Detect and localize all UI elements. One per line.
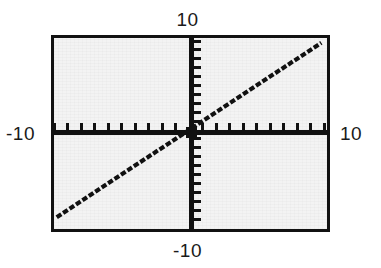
- x-axis-tick: [282, 123, 285, 130]
- x-axis-tick: [323, 123, 326, 130]
- x-axis-tick: [296, 123, 299, 130]
- y-axis-tick: [194, 111, 201, 114]
- y-axis-tick: [194, 218, 201, 221]
- x-axis-max-label: 10: [340, 124, 362, 143]
- x-axis-tick: [255, 123, 258, 130]
- y-axis-max-label: 10: [0, 10, 381, 29]
- y-axis-tick: [194, 75, 201, 78]
- x-axis-tick: [201, 123, 204, 130]
- x-axis-tick: [309, 123, 312, 130]
- x-axis-tick: [242, 123, 245, 130]
- x-axis-tick: [174, 123, 177, 130]
- y-axis-tick: [194, 120, 201, 123]
- x-axis-tick: [228, 123, 231, 130]
- y-axis-tick: [194, 57, 201, 60]
- y-axis-tick: [194, 209, 201, 212]
- x-axis-tick: [120, 123, 123, 130]
- y-axis-tick: [194, 102, 201, 105]
- y-axis-tick: [194, 84, 201, 87]
- x-axis-tick: [134, 123, 137, 130]
- cartesian-plot-figure: 10 -10 10 -10: [0, 0, 381, 268]
- x-axis-tick: [107, 123, 110, 130]
- y-axis-tick: [194, 164, 201, 167]
- plot-frame: [51, 35, 330, 232]
- y-axis-tick: [194, 191, 201, 194]
- y-axis-tick: [194, 93, 201, 96]
- x-axis-tick: [66, 123, 69, 130]
- y-axis-tick: [194, 48, 201, 51]
- x-axis-tick: [93, 123, 96, 130]
- x-axis-tick: [53, 123, 56, 130]
- origin-marker: [186, 127, 197, 138]
- x-axis-tick: [147, 123, 150, 130]
- y-axis-min-label: -10: [0, 241, 381, 260]
- y-axis-tick: [194, 146, 201, 149]
- y-axis-tick: [194, 200, 201, 203]
- x-axis-tick: [269, 123, 272, 130]
- y-axis-tick: [194, 182, 201, 185]
- y-axis-tick: [194, 155, 201, 158]
- x-axis-min-label: -10: [6, 124, 35, 143]
- x-axis-tick: [215, 123, 218, 130]
- x-axis-tick: [80, 123, 83, 130]
- y-axis-tick: [194, 40, 201, 43]
- x-axis-tick: [161, 123, 164, 130]
- y-axis-tick: [194, 173, 201, 176]
- plot-area: [54, 38, 327, 229]
- y-axis-tick: [194, 66, 201, 69]
